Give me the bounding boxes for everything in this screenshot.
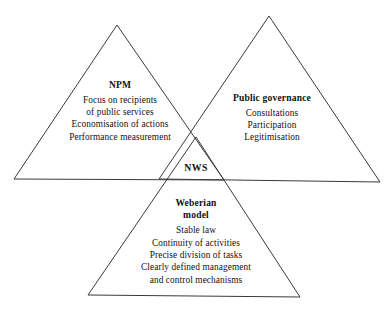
public-governance-item-2: Participation	[198, 119, 346, 131]
npm-item-4: Performance measurement	[34, 131, 206, 143]
public-governance-heading: Public governance	[198, 92, 346, 105]
weberian-heading-line-2: model	[82, 210, 310, 222]
public-governance-item-3: Legitimisation	[198, 131, 346, 143]
npm-item-1: Focus on recipients	[34, 94, 206, 106]
weberian-items: Stable law Continuity of activities Prec…	[82, 224, 310, 286]
npm-item-2: of public services	[34, 106, 206, 118]
weberian-item-1: Stable law	[82, 224, 310, 236]
weberian-item-5: and control mechanisms	[82, 274, 310, 286]
nws-label-block: NWS	[156, 161, 236, 174]
weberian-item-3: Precise division of tasks	[82, 249, 310, 261]
public-governance-text-block: Public governance Consultations Particip…	[198, 92, 346, 144]
public-governance-item-1: Consultations	[198, 107, 346, 119]
npm-heading: NPM	[34, 79, 206, 92]
weberian-item-4: Clearly defined management	[82, 261, 310, 273]
npm-text-block: NPM Focus on recipients of public servic…	[34, 79, 206, 143]
diagram-canvas: NPM Focus on recipients of public servic…	[0, 0, 392, 310]
weberian-text-block: Weberian model Stable law Continuity of …	[82, 198, 310, 286]
weberian-item-2: Continuity of activities	[82, 237, 310, 249]
weberian-heading-line-1: Weberian	[82, 198, 310, 210]
npm-item-3: Economisation of actions	[34, 118, 206, 130]
nws-label: NWS	[156, 161, 236, 174]
